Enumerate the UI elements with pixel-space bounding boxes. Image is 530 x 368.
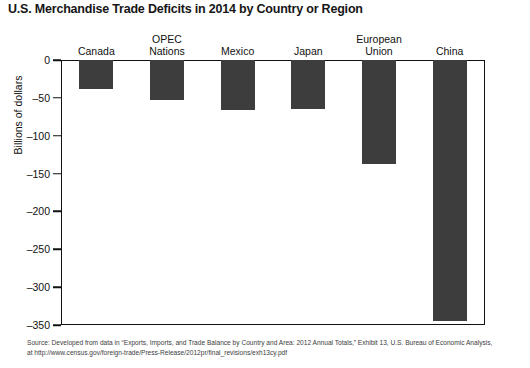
- y-tick-mark: [53, 324, 61, 326]
- bar-series: CanadaOPECNationsMexicoJapanEuropeanUnio…: [61, 60, 485, 325]
- source-line-1: Source: Developed from data in “Exports,…: [27, 338, 522, 348]
- x-tick-label: Japan: [294, 46, 323, 58]
- bar: [291, 60, 325, 109]
- x-tick-label: China: [436, 46, 463, 58]
- y-tick-mark: [53, 286, 61, 288]
- y-tick-label: –100: [27, 130, 50, 142]
- y-tick-label: 0: [44, 54, 50, 66]
- y-tick-mark: [53, 249, 61, 251]
- y-tick-label: –200: [27, 205, 50, 217]
- y-tick-label: –250: [27, 243, 50, 255]
- bar: [150, 60, 184, 100]
- chart-container: U.S. Merchandise Trade Deficits in 2014 …: [0, 0, 530, 368]
- bar-group: Mexico: [202, 60, 273, 325]
- y-tick-mark: [53, 59, 61, 61]
- source-note: Source: Developed from data in “Exports,…: [27, 338, 522, 357]
- y-tick-label: –300: [27, 281, 50, 293]
- bar: [433, 60, 467, 321]
- x-tick-label: OPECNations: [149, 34, 185, 57]
- y-axis-label: Billions of dollars: [0, 0, 10, 115]
- bar: [362, 60, 396, 164]
- x-tick-label: Mexico: [221, 46, 254, 58]
- bar-group: OPECNations: [132, 60, 203, 325]
- y-tick-label: –50: [32, 92, 50, 104]
- source-line-2: at http://www.census.gov/foreign-trade/P…: [27, 348, 522, 358]
- y-tick-mark: [53, 211, 61, 213]
- bar-group: Japan: [273, 60, 344, 325]
- x-tick-label: EuropeanUnion: [356, 34, 402, 57]
- x-tick-label: Canada: [78, 46, 115, 58]
- bar: [79, 60, 113, 89]
- chart-title: U.S. Merchandise Trade Deficits in 2014 …: [8, 2, 363, 16]
- y-tick-label: –350: [27, 319, 50, 331]
- y-tick-label: –150: [27, 168, 50, 180]
- bar-group: China: [414, 60, 485, 325]
- bar: [221, 60, 255, 110]
- y-tick-mark: [53, 173, 61, 175]
- bar-group: EuropeanUnion: [344, 60, 415, 325]
- y-axis-label-text: Billions of dollars: [12, 76, 24, 155]
- bar-group: Canada: [61, 60, 132, 325]
- y-tick-mark: [53, 135, 61, 137]
- y-tick-mark: [53, 97, 61, 99]
